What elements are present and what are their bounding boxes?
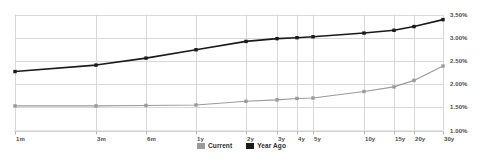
series-line-current	[15, 66, 443, 106]
data-point-marker	[194, 48, 197, 51]
x-axis-tick-label: 30y	[444, 136, 454, 142]
legend-label: Current	[208, 143, 232, 150]
data-point-marker	[392, 29, 395, 32]
y-axis-tick-label: 2.00%	[450, 81, 468, 87]
y-axis-tick-label: 3.50%	[450, 12, 468, 18]
x-axis-tick-label: 4y	[298, 136, 305, 142]
data-point-marker	[362, 90, 365, 93]
x-axis-tick-label: 2y	[247, 136, 254, 142]
data-point-marker	[144, 56, 147, 59]
data-point-marker	[441, 64, 444, 67]
plot-area	[0, 0, 483, 159]
y-axis-tick-label: 1.00%	[450, 128, 468, 134]
data-point-marker	[412, 25, 415, 28]
x-axis-tick-label: 1m	[16, 136, 25, 142]
x-axis-tick-label: 5y	[314, 136, 321, 142]
data-point-marker	[295, 97, 298, 100]
data-point-marker	[412, 79, 415, 82]
yield-curve-chart: 3.50%3.00%2.50%2.00%1.50%1.00% 1m3m6m1y2…	[0, 0, 483, 159]
x-axis-tick-label: 3m	[97, 136, 106, 142]
x-axis-tick-label: 3y	[278, 136, 285, 142]
y-axis-tick-label: 1.50%	[450, 104, 468, 110]
legend-swatch-icon	[246, 143, 254, 149]
data-point-marker	[275, 98, 278, 101]
data-point-marker	[244, 40, 247, 43]
data-point-marker	[94, 104, 97, 107]
data-point-marker	[441, 18, 444, 21]
data-point-marker	[275, 37, 278, 40]
series-line-year-ago	[15, 20, 443, 72]
data-point-marker	[194, 103, 197, 106]
x-axis-tick-label: 1y	[197, 136, 204, 142]
data-point-marker	[244, 100, 247, 103]
data-point-marker	[94, 63, 97, 66]
y-axis-tick-label: 2.50%	[450, 58, 468, 64]
data-point-marker	[392, 85, 395, 88]
data-point-marker	[295, 36, 298, 39]
legend-label: Year Ago	[257, 143, 286, 150]
data-point-marker	[362, 31, 365, 34]
legend-item[interactable]: Year Ago	[246, 143, 286, 150]
legend-item[interactable]: Current	[197, 143, 232, 150]
data-point-marker	[13, 104, 16, 107]
legend-swatch-icon	[197, 143, 205, 149]
data-point-marker	[311, 35, 314, 38]
x-axis-tick-label: 15y	[395, 136, 405, 142]
data-point-marker	[144, 104, 147, 107]
chart-legend: CurrentYear Ago	[0, 143, 483, 150]
x-axis-tick-label: 6m	[147, 136, 156, 142]
x-axis-tick-label: 10y	[365, 136, 375, 142]
y-axis-tick-label: 3.00%	[450, 35, 468, 41]
x-axis-tick-label: 20y	[415, 136, 425, 142]
data-point-marker	[311, 96, 314, 99]
data-point-marker	[13, 70, 16, 73]
